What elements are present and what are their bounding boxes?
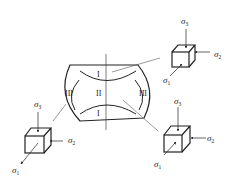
sigma1-label-bottom-left: σ1 — [12, 165, 19, 176]
stress-element-top-right — [170, 29, 210, 76]
sigma3-label-bottom-left: σ3 — [34, 99, 41, 110]
stress-zone-diagram: I I II III III σ3 σ2 σ1 σ3 σ2 σ1 σ3 σ2 σ… — [0, 0, 235, 189]
sigma1-label-bottom-right: σ1 — [154, 159, 161, 170]
zone-label-III-left: III — [65, 89, 73, 98]
sigma3-label-bottom-right: σ3 — [174, 96, 181, 107]
zone-label-II: II — [96, 89, 102, 98]
stress-element-bottom-right — [164, 107, 206, 155]
stress-element-bottom-left — [21, 112, 63, 164]
sigma2-label-top-right: σ2 — [214, 49, 221, 60]
sigma3-label-top-right: σ3 — [181, 16, 188, 27]
zone-label-I-top: I — [97, 70, 100, 79]
sigma1-label-top-right: σ1 — [163, 75, 170, 86]
sigma2-label-bottom-left: σ2 — [68, 135, 75, 146]
zone-label-I-bottom: I — [97, 109, 100, 118]
zone-label-III-right: III — [139, 89, 147, 98]
zone-boundaries — [71, 71, 142, 114]
sigma2-label-bottom-right: σ2 — [207, 133, 214, 144]
